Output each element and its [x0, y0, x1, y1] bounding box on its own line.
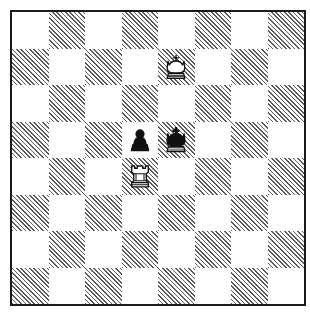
- board-square-e6[interactable]: [158, 85, 195, 122]
- board-square-c1[interactable]: [85, 268, 122, 305]
- board-square-f1[interactable]: [195, 268, 232, 305]
- board-square-a7[interactable]: [12, 49, 49, 86]
- black-pawn-piece[interactable]: [123, 123, 157, 157]
- board-square-a5[interactable]: [12, 122, 49, 159]
- board-square-f2[interactable]: [195, 231, 232, 268]
- board-square-b8[interactable]: [49, 12, 86, 49]
- board-square-b3[interactable]: [49, 195, 86, 232]
- board-square-a8[interactable]: [12, 12, 49, 49]
- board-square-c6[interactable]: [85, 85, 122, 122]
- chessboard-grid: [12, 12, 304, 304]
- board-square-b2[interactable]: [49, 231, 86, 268]
- board-square-b4[interactable]: [49, 158, 86, 195]
- board-square-a1[interactable]: [12, 268, 49, 305]
- board-square-g6[interactable]: [231, 85, 268, 122]
- board-square-d2[interactable]: [122, 231, 159, 268]
- board-square-e8[interactable]: [158, 12, 195, 49]
- chessboard-border: [10, 10, 306, 306]
- board-square-b1[interactable]: [49, 268, 86, 305]
- board-square-g5[interactable]: [231, 122, 268, 159]
- board-square-a4[interactable]: [12, 158, 49, 195]
- board-square-h1[interactable]: [268, 268, 305, 305]
- board-square-h4[interactable]: [268, 158, 305, 195]
- board-square-a2[interactable]: [12, 231, 49, 268]
- board-square-d1[interactable]: [122, 268, 159, 305]
- board-square-b7[interactable]: [49, 49, 86, 86]
- board-square-h2[interactable]: [268, 231, 305, 268]
- board-square-h8[interactable]: [268, 12, 305, 49]
- board-square-h5[interactable]: [268, 122, 305, 159]
- white-king-piece[interactable]: [159, 50, 193, 84]
- board-square-e4[interactable]: [158, 158, 195, 195]
- board-square-c2[interactable]: [85, 231, 122, 268]
- board-square-c7[interactable]: [85, 49, 122, 86]
- board-square-c4[interactable]: [85, 158, 122, 195]
- board-square-a3[interactable]: [12, 195, 49, 232]
- board-square-c8[interactable]: [85, 12, 122, 49]
- board-square-f5[interactable]: [195, 122, 232, 159]
- board-square-h7[interactable]: [268, 49, 305, 86]
- board-square-g1[interactable]: [231, 268, 268, 305]
- board-square-e7[interactable]: [158, 49, 195, 86]
- board-square-f7[interactable]: [195, 49, 232, 86]
- board-square-d8[interactable]: [122, 12, 159, 49]
- board-square-d5[interactable]: [122, 122, 159, 159]
- board-square-e5[interactable]: [158, 122, 195, 159]
- black-king-piece[interactable]: [159, 123, 193, 157]
- board-square-c5[interactable]: [85, 122, 122, 159]
- board-square-g3[interactable]: [231, 195, 268, 232]
- board-square-h3[interactable]: [268, 195, 305, 232]
- board-square-b6[interactable]: [49, 85, 86, 122]
- board-square-h6[interactable]: [268, 85, 305, 122]
- board-square-e2[interactable]: [158, 231, 195, 268]
- board-square-e3[interactable]: [158, 195, 195, 232]
- board-square-d4[interactable]: [122, 158, 159, 195]
- board-square-f3[interactable]: [195, 195, 232, 232]
- chess-diagram: [0, 0, 310, 316]
- white-rook-piece[interactable]: [123, 159, 157, 193]
- board-square-f4[interactable]: [195, 158, 232, 195]
- board-square-f6[interactable]: [195, 85, 232, 122]
- board-square-b5[interactable]: [49, 122, 86, 159]
- board-square-f8[interactable]: [195, 12, 232, 49]
- board-square-c3[interactable]: [85, 195, 122, 232]
- board-square-e1[interactable]: [158, 268, 195, 305]
- board-square-g2[interactable]: [231, 231, 268, 268]
- board-square-d6[interactable]: [122, 85, 159, 122]
- board-square-d3[interactable]: [122, 195, 159, 232]
- board-square-g7[interactable]: [231, 49, 268, 86]
- board-square-d7[interactable]: [122, 49, 159, 86]
- board-square-g4[interactable]: [231, 158, 268, 195]
- board-square-a6[interactable]: [12, 85, 49, 122]
- board-square-g8[interactable]: [231, 12, 268, 49]
